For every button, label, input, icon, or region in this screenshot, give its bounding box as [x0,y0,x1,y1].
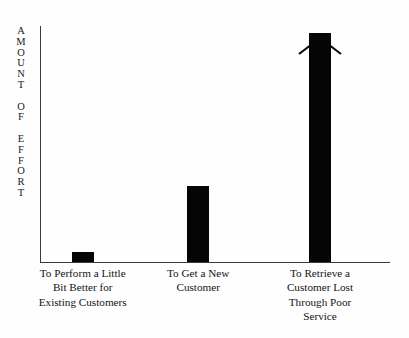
y-axis-title-letter: F [18,112,24,123]
category-label-line: Bit Better for [13,280,153,294]
category-label-line: Customer Lost [259,280,381,294]
category-label-retrieve-lost-customer: To Retrieve a Customer Lost Through Poor… [259,266,381,324]
plot-area [40,18,390,262]
category-label-line: Service [259,309,381,323]
y-axis-title-letter: F [18,145,24,156]
chart-figure: A M O U N T O F E F F O R T To Perform a… [0,0,409,338]
category-label-line: Customer [139,280,257,294]
category-label-existing-customers: To Perform a Little Bit Better for Exist… [13,266,153,309]
y-axis-title-letter: M [16,37,25,48]
category-label-line: Through Poor [259,295,381,309]
bar-new-customer [187,186,209,262]
y-axis-title-letter: T [18,80,24,91]
category-label-line: To Perform a Little [13,266,153,280]
x-axis-category-labels: To Perform a Little Bit Better for Exist… [40,266,390,338]
category-label-line: Existing Customers [13,295,153,309]
category-label-line: To Retrieve a [259,266,381,280]
bar-existing-customers [72,252,94,262]
category-label-line: To Get a New [139,266,257,280]
x-axis-line [40,262,390,263]
bar-retrieve-lost-customer [309,33,331,262]
y-axis-title-letter: T [18,188,24,199]
y-axis-title: A M O U N T O F E F F O R T [11,26,31,266]
category-label-new-customer: To Get a New Customer [139,266,257,295]
